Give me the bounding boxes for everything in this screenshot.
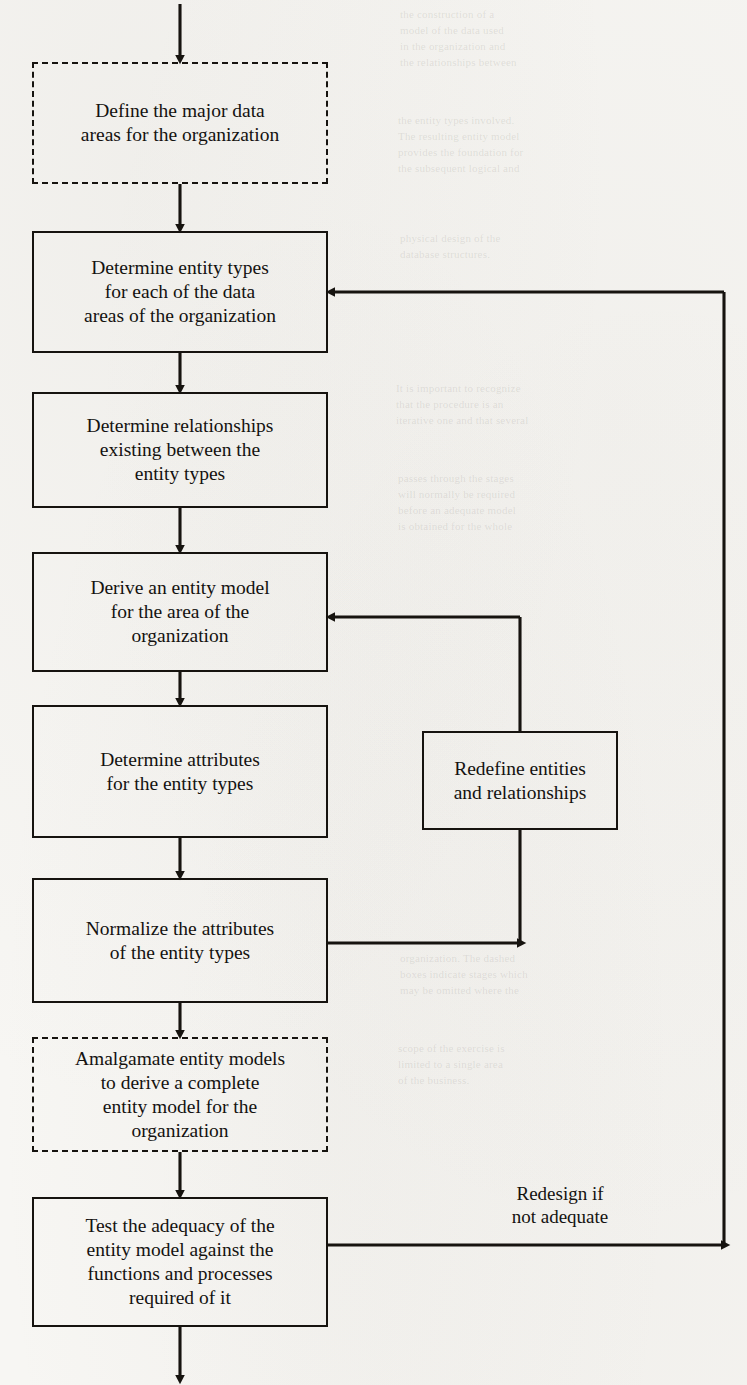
flow-node-label: Define the major data areas for the orga… bbox=[81, 99, 279, 147]
flow-node-test-adequacy: Test the adequacy of the entity model ag… bbox=[32, 1197, 328, 1327]
flow-node-label: Amalgamate entity models to derive a com… bbox=[75, 1047, 285, 1143]
flow-node-label: Determine attributes for the entity type… bbox=[100, 748, 260, 796]
flow-node-label: Determine entity types for each of the d… bbox=[84, 256, 276, 328]
flow-node-determine-attributes: Determine attributes for the entity type… bbox=[32, 705, 328, 838]
flow-node-determine-relationships: Determine relationships existing between… bbox=[32, 392, 328, 508]
flow-node-normalize-attributes: Normalize the attributes of the entity t… bbox=[32, 878, 328, 1003]
edge-label-redesign-if-not-adequate: Redesign if not adequate bbox=[455, 1182, 665, 1228]
flow-node-define-data-areas: Define the major data areas for the orga… bbox=[32, 62, 328, 184]
flow-node-determine-entity-types: Determine entity types for each of the d… bbox=[32, 231, 328, 353]
flow-node-label: Redefine entities and relationships bbox=[454, 757, 587, 805]
flow-node-label: Determine relationships existing between… bbox=[87, 414, 274, 486]
flow-node-label: Test the adequacy of the entity model ag… bbox=[85, 1214, 274, 1310]
flow-node-redefine-entities: Redefine entities and relationships bbox=[422, 731, 618, 830]
flow-node-label: Derive an entity model for the area of t… bbox=[90, 576, 269, 648]
flowchart-page: the construction of a model of the data … bbox=[0, 0, 747, 1385]
flow-connectors bbox=[0, 0, 747, 1385]
flow-node-label: Normalize the attributes of the entity t… bbox=[86, 917, 274, 965]
flow-node-derive-entity-model: Derive an entity model for the area of t… bbox=[32, 552, 328, 672]
flow-node-amalgamate-entity-models: Amalgamate entity models to derive a com… bbox=[32, 1037, 328, 1152]
